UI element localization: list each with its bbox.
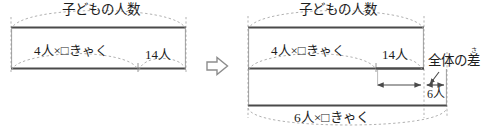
diagram-canvas [0,0,488,136]
zentai-no-sa-base: 全体の [428,53,467,68]
left-remainder-label: 14人 [145,48,171,61]
right-remainder-label: 14人 [382,48,408,61]
right-main-segment-label: 4人×□きゃく [271,44,345,57]
tape-diagram-figure: 子どもの人数 4人×□きゃく 14人 子どもの人数 4人×□きゃく 14人 全体… [0,0,488,136]
left-top-label: 子どもの人数 [62,3,140,17]
sa-kanji: 差 [467,53,480,68]
overhang-label: 6人 [427,88,445,100]
right-arrow-icon [207,58,228,75]
right-tape-group [248,11,447,126]
right-bottom-label: 6人×□きゃく [294,111,369,125]
zentai-no-sa-leader [430,72,439,84]
left-main-segment-label: 4人×□きゃく [34,44,108,57]
right-top-label: 子どもの人数 [299,3,377,17]
zentai-no-sa-label: 全体の差さ [428,47,480,68]
left-tape-group [11,11,186,73]
sa-kanji-ruby: 差さ [467,53,480,68]
sa-furigana: さ [467,47,480,53]
